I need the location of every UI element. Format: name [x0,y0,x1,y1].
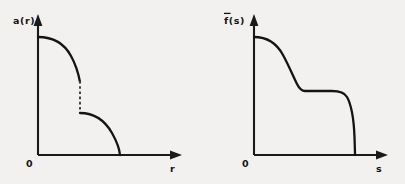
plot-right-svg: f(s) s 0 [202,0,404,184]
y-axis-arrowhead-right [250,14,259,26]
curve-lower-branch-left [80,113,120,155]
x-axis-arrowhead-left [170,151,182,160]
plot-panel-right: f(s) s 0 [202,0,404,184]
x-axis-label-left: r [170,163,175,174]
origin-label-right: 0 [242,158,249,169]
plot-left-svg: a(r) r 0 [0,0,202,184]
origin-label-left: 0 [26,158,33,169]
figure-container: a(r) r 0 f(s) s 0 [0,0,405,184]
y-axis-label-group-right: f(s) [224,13,245,26]
y-axis-label-left: a(r) [13,15,35,26]
curve-fbar-right [254,37,355,155]
y-axis-label-right: f(s) [224,15,245,26]
x-axis-arrowhead-right [376,151,388,160]
x-axis-label-right: s [376,163,382,174]
curve-upper-branch-left [38,37,80,82]
plot-panel-left: a(r) r 0 [0,0,202,184]
